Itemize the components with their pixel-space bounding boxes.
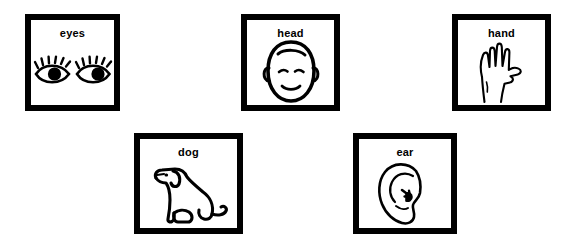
eyes-icon: [31, 39, 114, 105]
head-icon: [247, 39, 334, 105]
picture-card-hand[interactable]: hand: [452, 14, 551, 111]
card-label-dog: dog: [178, 146, 199, 158]
ear-icon: [359, 158, 451, 228]
picture-card-ear[interactable]: ear: [353, 133, 457, 234]
hand-icon: [458, 39, 545, 105]
picture-card-dog[interactable]: dog: [134, 133, 243, 234]
picture-card-head[interactable]: head: [241, 14, 340, 111]
picture-card-sheet: eyes: [0, 0, 587, 246]
picture-card-eyes[interactable]: eyes: [25, 14, 120, 111]
card-label-head: head: [277, 27, 303, 39]
card-label-eyes: eyes: [60, 27, 85, 39]
card-label-hand: hand: [488, 27, 515, 39]
dog-icon: [140, 158, 237, 228]
card-label-ear: ear: [396, 146, 413, 158]
